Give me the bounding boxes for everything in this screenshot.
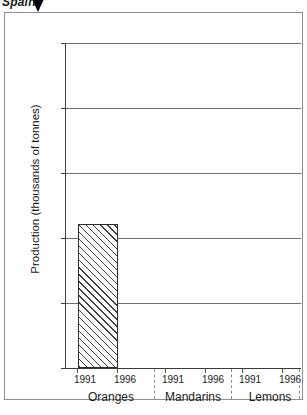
x-tick-oranges-1996 <box>117 369 118 373</box>
y-tick-mark-150 <box>61 173 66 174</box>
x-tick-label-mandarins-1991: 1991 <box>151 374 195 385</box>
chart-figure-frame: Production (thousands of tonnes) 250 200… <box>4 12 303 400</box>
plot-area: 250 200 150 100 50 0 <box>65 43 301 369</box>
x-tick-label-oranges-1991: 1991 <box>63 374 107 385</box>
bar-oranges-1991 <box>78 224 118 368</box>
x-tick-mandarins-1991 <box>165 369 166 373</box>
x-tick-oranges-1991 <box>77 369 78 373</box>
down-triangle-icon <box>32 0 44 12</box>
x-tick-label-lemons-1991: 1991 <box>228 374 272 385</box>
gridline-200 <box>66 108 301 109</box>
x-tick-lemons-1991 <box>242 369 243 373</box>
y-tick-mark-200 <box>61 108 66 109</box>
y-axis-title: Production (thousands of tonnes) <box>29 59 41 319</box>
x-tick-label-oranges-1996: 1996 <box>103 374 147 385</box>
group-label-lemons: Lemons <box>222 390 307 404</box>
gridline-150 <box>66 173 301 174</box>
x-tick-mandarins-1996 <box>205 369 206 373</box>
page-title: Spain <box>2 0 36 9</box>
x-tick-label-lemons-1996: 1996 <box>268 374 307 385</box>
gridline-250 <box>66 43 301 44</box>
y-tick-mark-250 <box>61 43 66 44</box>
x-tick-lemons-1996 <box>282 369 283 373</box>
y-tick-mark-100 <box>61 238 66 239</box>
x-axis: 1991 1996 1991 1996 1991 1996 Oranges Ma… <box>65 369 301 414</box>
y-tick-mark-50 <box>61 303 66 304</box>
